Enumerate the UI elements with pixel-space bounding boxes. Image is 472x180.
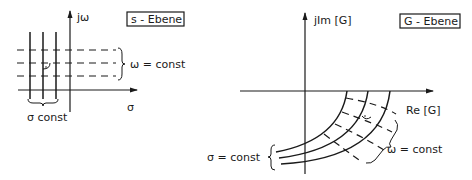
s-plane-horizontal-axis-label: σ <box>127 101 134 114</box>
g-plane-right-angle-mark <box>362 116 371 119</box>
s-plane-right-angle-mark <box>43 63 50 69</box>
g-plane-horizontal-axis-label: Re [G] <box>406 104 441 117</box>
s-plane-omega-brace <box>118 48 125 80</box>
g-plane-omega-curves <box>324 98 396 162</box>
g-plane-sigma-brace <box>268 145 275 170</box>
s-plane-vertical-axis-label: jω <box>76 11 89 24</box>
conformal-mapping-diagram: jω σ ω = const σ const s - Ebene <box>0 0 472 180</box>
g-plane-diagram: jIm [G] Re [G] σ = const ω = const G - E… <box>207 13 460 174</box>
s-plane-sigma-brace <box>28 99 58 106</box>
s-plane-title: s - Ebene <box>131 13 182 26</box>
s-plane-sigma-lines <box>30 32 56 99</box>
g-plane-sigma-brace-label: σ = const <box>207 151 261 164</box>
g-plane-omega-brace-label: ω = const <box>387 143 443 156</box>
g-plane-title: G - Ebene <box>404 15 458 28</box>
s-plane-omega-brace-label: ω = const <box>130 58 186 71</box>
s-plane-omega-lines <box>17 50 116 76</box>
s-plane-diagram: jω σ ω = const σ const s - Ebene <box>17 11 186 124</box>
g-plane-vertical-axis-label: jIm [G] <box>313 14 352 27</box>
s-plane-sigma-brace-label: σ const <box>27 111 68 124</box>
g-plane-sigma-curves <box>276 91 390 164</box>
